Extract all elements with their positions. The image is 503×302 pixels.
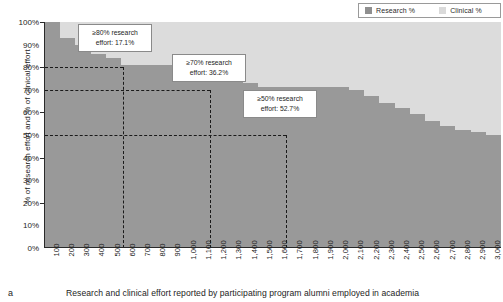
legend-item-clinical: Clinical % xyxy=(439,7,482,14)
bar-segment-clinical xyxy=(471,22,486,132)
annotation-70pct-line1: ≥70% research xyxy=(177,58,241,68)
x-tick: 2,500 xyxy=(410,249,425,289)
bar-segment-clinical xyxy=(288,22,303,87)
x-tick: 1,000 xyxy=(181,249,196,289)
bar-column xyxy=(288,22,303,247)
bar-segment-clinical xyxy=(60,22,75,38)
bar-segment-research xyxy=(425,121,440,247)
y-tick-label: 40% xyxy=(0,153,39,162)
x-tick: 2,700 xyxy=(440,249,455,289)
bar-segment-clinical xyxy=(303,22,318,87)
bar-segment-research xyxy=(364,96,379,247)
x-tick: 2,400 xyxy=(394,249,409,289)
legend-swatch-clinical-icon xyxy=(439,7,446,14)
bar-segment-research xyxy=(212,74,227,247)
bar-segment-clinical xyxy=(395,22,410,108)
x-tick: 500 xyxy=(105,249,120,289)
bar-column xyxy=(334,22,349,247)
x-tick: 1,800 xyxy=(303,249,318,289)
y-tick-label: 70% xyxy=(0,85,39,94)
x-tick: 2,200 xyxy=(364,249,379,289)
bar-column xyxy=(455,22,470,247)
bar-segment-research xyxy=(486,135,501,248)
bar-segment-research xyxy=(471,132,486,247)
bar-segment-research xyxy=(334,87,349,247)
bar-segment-research xyxy=(440,126,455,248)
guide-line-horizontal-80 xyxy=(45,67,123,68)
x-tick: 400 xyxy=(90,249,105,289)
bar-segment-clinical xyxy=(440,22,455,126)
bar-segment-clinical xyxy=(425,22,440,121)
bar-segment-clinical xyxy=(349,22,364,90)
annotation-80pct-line2: effort: 17.1% xyxy=(83,38,147,48)
bar-segment-clinical xyxy=(273,22,288,87)
x-tick: 1,500 xyxy=(257,249,272,289)
bar-segment-research xyxy=(395,108,410,248)
bar-segment-research xyxy=(75,45,90,248)
guide-line-vertical-80 xyxy=(123,67,124,248)
chart-legend: Research % Clinical % xyxy=(358,3,501,18)
y-tick-label: 60% xyxy=(0,108,39,117)
bar-segment-clinical xyxy=(258,22,273,87)
annotation-80pct: ≥80% research effort: 17.1% xyxy=(78,24,152,52)
x-tick: 3,000 xyxy=(486,249,501,289)
x-tick: 2,600 xyxy=(425,249,440,289)
legend-item-research: Research % xyxy=(365,7,415,14)
y-tick-mark xyxy=(40,67,44,68)
bar-column xyxy=(319,22,334,247)
x-tick: 1,200 xyxy=(212,249,227,289)
bar-column xyxy=(379,22,394,247)
x-tick: 2,000 xyxy=(333,249,348,289)
guide-line-horizontal-70 xyxy=(45,90,210,91)
x-tick: 100 xyxy=(44,249,59,289)
x-tick: 200 xyxy=(59,249,74,289)
bar-segment-research xyxy=(91,54,106,248)
figure-panel: Research % Clinical % % of research effo… xyxy=(0,0,503,302)
bar-column xyxy=(486,22,501,247)
bar-segment-research xyxy=(151,65,166,247)
bar-segment-clinical xyxy=(364,22,379,96)
bar-segment-research xyxy=(349,90,364,248)
bar-column xyxy=(425,22,440,247)
bar-segment-research xyxy=(410,114,425,247)
bar-segment-research xyxy=(455,130,470,247)
y-tick-mark xyxy=(40,203,44,204)
annotation-50pct-line1: ≥50% research xyxy=(248,94,312,104)
y-tick-label: 90% xyxy=(0,40,39,49)
guide-line-vertical-70 xyxy=(210,90,211,248)
bar-segment-research xyxy=(182,65,197,247)
y-tick-label: 80% xyxy=(0,63,39,72)
bar-segment-clinical xyxy=(455,22,470,130)
bar-column xyxy=(471,22,486,247)
x-tick: 2,300 xyxy=(379,249,394,289)
y-tick-label: 50% xyxy=(0,131,39,140)
annotation-50pct-line2: effort: 52.7% xyxy=(248,104,312,114)
x-tick: 300 xyxy=(74,249,89,289)
bar-segment-research xyxy=(167,65,182,247)
guide-line-horizontal-50 xyxy=(45,135,286,136)
bar-column xyxy=(364,22,379,247)
legend-label-research: Research % xyxy=(376,7,415,14)
figure-caption: Research and clinical effort reported by… xyxy=(66,288,419,298)
bar-segment-clinical xyxy=(486,22,501,135)
y-tick-mark xyxy=(40,158,44,159)
x-tick: 2,800 xyxy=(455,249,470,289)
legend-swatch-research-icon xyxy=(365,7,372,14)
y-tick-label: 100% xyxy=(0,18,39,27)
x-tick: 800 xyxy=(151,249,166,289)
annotation-70pct-line2: effort: 36.2% xyxy=(177,68,241,78)
guide-line-vertical-50 xyxy=(286,135,287,248)
x-tick: 1,100 xyxy=(196,249,211,289)
bar-segment-clinical xyxy=(410,22,425,114)
bar-segment-research xyxy=(379,103,394,247)
bar-segment-research xyxy=(227,78,242,247)
annotation-80pct-line1: ≥80% research xyxy=(83,28,147,38)
bar-segment-clinical xyxy=(151,22,166,65)
x-tick: 2,900 xyxy=(471,249,486,289)
x-tick: 1,900 xyxy=(318,249,333,289)
y-tick-mark xyxy=(40,22,44,23)
x-tick: 1,600 xyxy=(273,249,288,289)
panel-letter: a xyxy=(8,288,13,298)
bar-column xyxy=(410,22,425,247)
x-tick: 1,300 xyxy=(227,249,242,289)
